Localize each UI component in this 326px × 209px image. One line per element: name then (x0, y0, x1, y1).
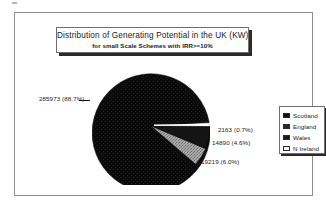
legend-swatch-england (283, 124, 290, 129)
legend-label-n-ireland: N Ireland (293, 145, 319, 152)
data-label-scotland: 285973 (88.7%) (39, 95, 84, 102)
chart-frame: Distribution of Generating Potential in … (14, 12, 313, 196)
legend-swatch-n-ireland (283, 146, 290, 151)
legend-item-scotland: Scotland (283, 110, 324, 121)
legend-label-wales: Wales (293, 134, 310, 141)
data-label-england: 19219 (6.0%) (201, 158, 239, 165)
legend-item-wales: Wales (283, 132, 324, 143)
legend-item-n-ireland: N Ireland (283, 143, 324, 154)
chart-subtitle: for small Scale Schemes with IRR>=10% (57, 41, 248, 50)
scan-artifact-speck (12, 2, 17, 4)
data-label-n-ireland: 2163 (0.7%) (218, 126, 253, 133)
legend-swatch-wales (283, 135, 290, 140)
chart-legend: Scotland England Wales N Ireland (279, 106, 325, 154)
legend-label-england: England (293, 123, 316, 130)
legend-item-england: England (283, 121, 324, 132)
pie-chart-svg (92, 67, 210, 185)
legend-label-scotland: Scotland (293, 112, 318, 119)
pie-chart (92, 67, 210, 185)
leader-line-n-ireland (154, 125, 210, 126)
chart-title-block: Distribution of Generating Potential in … (56, 27, 249, 53)
data-label-wales: 14890 (4.6%) (212, 139, 250, 146)
chart-title: Distribution of Generating Potential in … (57, 30, 248, 41)
legend-swatch-scotland (283, 113, 290, 118)
